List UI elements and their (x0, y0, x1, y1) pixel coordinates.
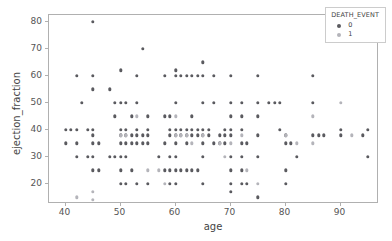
data-point (119, 142, 122, 145)
data-point (223, 142, 226, 145)
data-point (201, 74, 204, 77)
data-point (229, 101, 232, 104)
data-point (168, 169, 171, 172)
data-point (113, 115, 116, 118)
data-point (207, 128, 210, 131)
data-point (64, 128, 67, 131)
data-point (91, 142, 94, 145)
data-point (284, 182, 287, 185)
y-tick-mark (45, 21, 48, 22)
data-point (284, 133, 287, 136)
data-point (174, 169, 177, 172)
data-point (190, 74, 193, 77)
data-point (229, 155, 232, 158)
data-point (124, 142, 127, 145)
data-point (146, 142, 149, 145)
data-point (311, 101, 314, 104)
x-tick-mark (230, 203, 231, 206)
x-tick-label: 90 (334, 207, 345, 217)
data-point (130, 142, 133, 145)
data-point (179, 169, 182, 172)
data-point (212, 142, 215, 145)
data-point (240, 169, 243, 172)
data-point (119, 101, 122, 104)
data-point (185, 142, 188, 145)
y-tick-label: 60 (31, 70, 42, 80)
data-point (311, 115, 314, 118)
data-point (240, 101, 243, 104)
data-point (135, 182, 138, 185)
data-point (179, 128, 182, 131)
data-point (350, 133, 353, 136)
data-point (124, 101, 127, 104)
x-tick-label: 50 (114, 207, 125, 217)
data-point (311, 133, 314, 136)
y-tick-label: 80 (31, 16, 42, 26)
x-tick-mark (65, 203, 66, 206)
data-point (174, 142, 177, 145)
legend: DEATH_EVENT 01 (325, 7, 386, 43)
data-point (229, 169, 232, 172)
data-point (168, 128, 171, 131)
data-point (256, 182, 259, 185)
scatter-plot-figure: 40506070809020304050607080 age ejection_… (0, 0, 392, 241)
data-point (223, 133, 226, 136)
data-point (146, 133, 149, 136)
y-tick-label: 30 (31, 151, 42, 161)
data-point (75, 74, 78, 77)
data-point (240, 142, 243, 145)
data-point (135, 101, 138, 104)
legend-item[interactable]: 1 (331, 30, 379, 39)
data-point (366, 155, 369, 158)
data-point (284, 169, 287, 172)
data-point (179, 74, 182, 77)
data-point (201, 155, 204, 158)
data-point (311, 74, 314, 77)
data-point (256, 133, 259, 136)
data-point (366, 128, 369, 131)
data-point (75, 142, 78, 145)
data-point (185, 74, 188, 77)
data-point (196, 74, 199, 77)
x-tick-mark (175, 203, 176, 206)
data-point (69, 128, 72, 131)
legend-marker-icon (337, 33, 341, 37)
data-point (163, 182, 166, 185)
data-point (174, 155, 177, 158)
y-tick-mark (45, 102, 48, 103)
data-point (190, 128, 193, 131)
data-point (339, 133, 342, 136)
data-point (163, 74, 166, 77)
data-point (91, 155, 94, 158)
data-point (75, 128, 78, 131)
data-point (91, 74, 94, 77)
data-point (229, 142, 232, 145)
data-point (135, 128, 138, 131)
data-point (322, 133, 325, 136)
legend-item[interactable]: 0 (331, 21, 379, 30)
data-point (245, 182, 248, 185)
data-point (174, 69, 177, 72)
data-point (201, 133, 204, 136)
legend-marker-icon (337, 24, 341, 28)
data-point (163, 142, 166, 145)
data-point (135, 133, 138, 136)
data-point (119, 128, 122, 131)
data-point (179, 133, 182, 136)
data-point (190, 169, 193, 172)
data-point (267, 101, 270, 104)
legend-label: 1 (348, 30, 352, 39)
data-point (229, 190, 232, 193)
data-point (256, 196, 259, 199)
data-point (146, 169, 149, 172)
y-tick-mark (45, 48, 48, 49)
data-point (141, 47, 144, 50)
x-tick-label: 60 (169, 207, 180, 217)
y-tick-mark (45, 75, 48, 76)
data-point (289, 142, 292, 145)
data-point (240, 133, 243, 136)
data-point (75, 196, 78, 199)
data-point (91, 88, 94, 91)
data-point (157, 169, 160, 172)
data-point (256, 74, 259, 77)
